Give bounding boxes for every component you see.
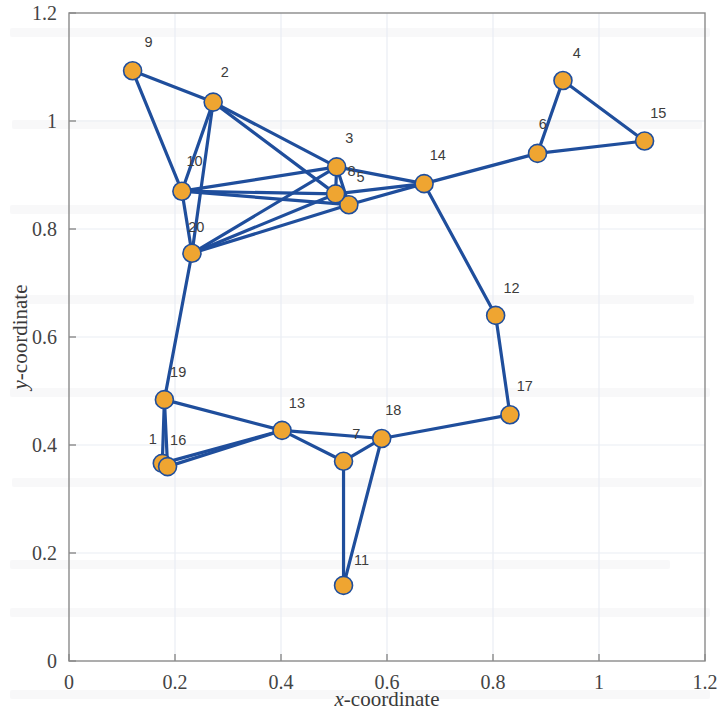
graph-edge: [538, 141, 645, 153]
y-axis-title: y-coordinate: [8, 285, 32, 392]
y-tick-label: 0.2: [32, 542, 57, 564]
graph-node[interactable]: [636, 132, 654, 150]
x-tick-label: 1.2: [693, 671, 718, 693]
graph-node[interactable]: [501, 406, 519, 424]
graph-edge: [424, 184, 496, 316]
graph-node[interactable]: [159, 458, 177, 476]
graph-edge: [563, 81, 645, 141]
graph-node[interactable]: [183, 244, 201, 262]
graph-node-label: 9: [144, 34, 152, 50]
graph-node[interactable]: [529, 144, 547, 162]
graph-node-label: 15: [650, 105, 666, 121]
node-labels: 1234567891011121314151617181920: [144, 34, 666, 568]
x-tick-label: 0.8: [481, 671, 506, 693]
x-tick-label: 0.2: [163, 671, 188, 693]
graph-node-label: 10: [187, 153, 203, 169]
graph-edge: [192, 194, 336, 253]
graph-node-label: 8: [347, 163, 355, 179]
graph-edge: [213, 102, 336, 167]
graph-edge: [496, 315, 510, 414]
graph-node[interactable]: [124, 62, 142, 80]
graph-node-label: 6: [539, 116, 547, 132]
graph-node-label: 3: [345, 130, 353, 146]
graph-node[interactable]: [173, 182, 191, 200]
graph-node-label: 19: [170, 364, 186, 380]
graph-node-label: 17: [517, 378, 533, 394]
graph-node[interactable]: [155, 391, 173, 409]
graph-node-label: 18: [385, 402, 401, 418]
graph-node[interactable]: [415, 175, 433, 193]
y-tick-label: 1: [47, 110, 57, 132]
grid-lines: [69, 13, 705, 661]
graph-node[interactable]: [273, 421, 291, 439]
graph-node-label: 20: [188, 219, 204, 235]
y-tick-label: 1.2: [32, 2, 57, 24]
graph-node-label: 5: [356, 169, 364, 185]
graph-node[interactable]: [373, 430, 391, 448]
graph-node-label: 7: [352, 426, 360, 442]
graph-node[interactable]: [204, 93, 222, 111]
graph-node-label: 16: [170, 432, 186, 448]
graph-node-label: 11: [354, 552, 369, 568]
graph-edge: [382, 415, 510, 439]
graph-edge: [164, 400, 282, 431]
graph-node[interactable]: [335, 452, 353, 470]
graph-node-coordinate-figure: 00.20.40.60.811.200.20.40.60.811.2 12345…: [0, 0, 727, 715]
graph-node[interactable]: [335, 576, 353, 594]
x-tick-label: 0.4: [269, 671, 294, 693]
graph-node-label: 14: [430, 147, 446, 163]
graph-node[interactable]: [554, 72, 572, 90]
y-tick-label: 0.4: [32, 434, 57, 456]
y-tick-label: 0: [47, 650, 57, 672]
graph-node[interactable]: [327, 185, 345, 203]
x-tick-label: 0: [64, 671, 74, 693]
tick-labels: 00.20.40.60.811.200.20.40.60.811.2: [32, 2, 718, 693]
y-tick-label: 0.8: [32, 218, 57, 240]
x-axis-title: x-coordinate: [334, 687, 440, 711]
graph-edges: [133, 71, 645, 586]
graph-node-label: 2: [221, 64, 229, 80]
graph-node-label: 1: [149, 431, 157, 447]
graph-node-label: 12: [503, 280, 519, 296]
y-tick-label: 0.6: [32, 326, 57, 348]
graph-nodes: [124, 62, 654, 595]
graph-node[interactable]: [487, 306, 505, 324]
graph-node[interactable]: [328, 158, 346, 176]
graph-node-label: 4: [573, 45, 581, 61]
x-tick-label: 1: [594, 671, 604, 693]
plot-canvas: 00.20.40.60.811.200.20.40.60.811.2 12345…: [0, 0, 727, 715]
graph-node-label: 13: [289, 395, 305, 411]
